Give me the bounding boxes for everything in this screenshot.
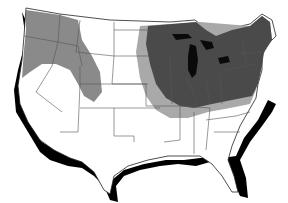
map-svg xyxy=(0,0,288,203)
us-map xyxy=(0,0,288,203)
